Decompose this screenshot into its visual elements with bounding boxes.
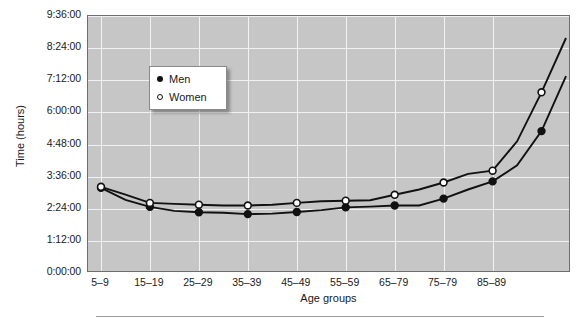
- open-circle-marker: [391, 191, 398, 198]
- open-circle-marker: [244, 202, 251, 209]
- filled-circle-marker: [538, 128, 545, 135]
- legend-label-women: Women: [169, 91, 207, 103]
- filled-circle-marker: [196, 209, 203, 216]
- filled-circle-marker: [293, 209, 300, 216]
- open-circle-marker: [342, 197, 349, 204]
- x-tick-label: 85–89: [457, 276, 527, 288]
- open-circle-marker: [538, 89, 545, 96]
- legend: Men Women: [149, 66, 227, 110]
- filled-circle-marker: [440, 195, 447, 202]
- filled-circle-marker: [342, 204, 349, 211]
- y-tick-label: 6:00:00: [0, 105, 81, 116]
- open-circle-icon: [157, 94, 163, 100]
- line-chart: Time (hours) 0:00:001:12:002:24:003:36:0…: [0, 0, 582, 324]
- y-tick-label: 4:48:00: [0, 138, 81, 149]
- filled-circle-marker: [244, 211, 251, 218]
- open-circle-marker: [489, 167, 496, 174]
- series-layer: [88, 16, 571, 273]
- y-tick-label: 2:24:00: [0, 202, 81, 213]
- open-circle-marker: [293, 200, 300, 207]
- legend-item-men: Men: [157, 71, 190, 87]
- x-axis-title: Age groups: [87, 292, 570, 304]
- legend-item-women: Women: [157, 89, 207, 105]
- y-tick-label: 1:12:00: [0, 234, 81, 245]
- filled-circle-marker: [489, 178, 496, 185]
- legend-label-men: Men: [169, 73, 190, 85]
- bottom-rule: [96, 316, 544, 317]
- open-circle-marker: [147, 200, 154, 207]
- filled-circle-icon: [157, 76, 163, 82]
- open-circle-marker: [440, 179, 447, 186]
- open-circle-marker: [196, 201, 203, 208]
- filled-circle-marker: [391, 202, 398, 209]
- y-tick-label: 3:36:00: [0, 170, 81, 181]
- open-circle-marker: [98, 183, 105, 190]
- y-tick-label: 8:24:00: [0, 41, 81, 52]
- plot-area: [87, 15, 570, 272]
- y-tick-label: 7:12:00: [0, 73, 81, 84]
- y-tick-label: 9:36:00: [0, 9, 81, 20]
